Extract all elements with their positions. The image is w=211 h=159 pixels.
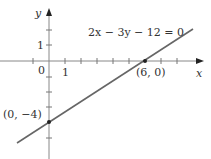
point-0-neg4 — [47, 120, 51, 124]
y-tick-label-1: 1 — [37, 39, 44, 52]
y-axis-arrow-icon — [46, 8, 52, 16]
line-graph: y x 1 1 0 2x − 3y − 12 = 0 (6, 0) (0, −4… — [0, 0, 211, 159]
y-axis — [46, 8, 52, 159]
point-6-0 — [143, 59, 147, 63]
y-axis-label: y — [34, 7, 42, 20]
equation-label: 2x − 3y − 12 = 0 — [88, 26, 184, 39]
origin-label: 0 — [38, 64, 45, 77]
point-label-0-neg4: (0, −4) — [3, 108, 42, 121]
x-tick-label-1: 1 — [62, 66, 69, 79]
x-axis-label: x — [196, 67, 203, 80]
x-axis — [0, 58, 204, 64]
point-label-6-0: (6, 0) — [136, 66, 166, 79]
x-axis-arrow-icon — [196, 58, 204, 64]
